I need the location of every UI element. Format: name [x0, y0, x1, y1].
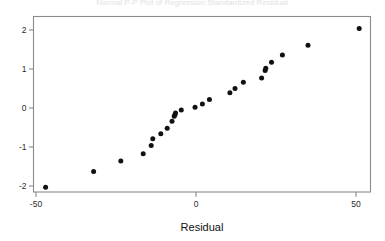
data-point — [91, 169, 96, 174]
data-point — [193, 105, 198, 110]
figure-background — [0, 0, 385, 241]
data-point — [149, 143, 154, 148]
data-point — [280, 52, 285, 57]
data-point — [269, 60, 274, 65]
x-tick-label: -50 — [30, 199, 43, 209]
y-tick-label: 0 — [22, 103, 27, 113]
data-point — [227, 90, 232, 95]
y-tick-label: -1 — [19, 142, 27, 152]
data-point — [241, 80, 246, 85]
data-point — [173, 111, 178, 116]
data-point — [357, 26, 362, 31]
y-tick-label: -2 — [19, 181, 27, 191]
data-point — [259, 75, 264, 80]
data-point — [43, 185, 48, 190]
data-point — [165, 126, 170, 131]
data-point — [170, 119, 175, 124]
data-point — [158, 131, 163, 136]
data-point — [150, 136, 155, 141]
chart-figure: Normal P-P Plot of Regression Standardiz… — [0, 0, 385, 241]
y-tick-label: 1 — [22, 64, 27, 74]
data-point — [306, 43, 311, 48]
scatter-plot-canvas: Normal P-P Plot of Regression Standardiz… — [0, 0, 385, 241]
x-axis-title: Residual — [181, 221, 224, 233]
data-point — [200, 102, 205, 107]
data-point — [179, 107, 184, 112]
data-point — [207, 97, 212, 102]
x-tick-label: 0 — [194, 199, 199, 209]
x-tick-label: 50 — [351, 199, 361, 209]
data-point — [118, 159, 123, 164]
chart-title-clipped: Normal P-P Plot of Regression Standardiz… — [96, 0, 288, 7]
data-point — [263, 66, 268, 71]
data-point — [233, 86, 238, 91]
y-tick-label: 2 — [22, 25, 27, 35]
data-point — [141, 151, 146, 156]
